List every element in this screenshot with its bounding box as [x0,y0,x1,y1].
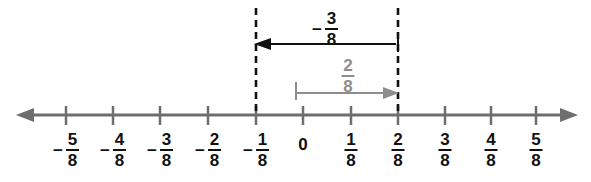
right-arrowhead-icon [560,108,578,122]
zero-value: 0 [298,136,307,153]
denominator: 8 [392,152,403,169]
minus-sign: − [195,142,205,159]
minus-sign: − [147,142,157,159]
denominator: 8 [439,152,450,169]
denominator: 8 [257,152,268,169]
fraction: 4 8 [485,131,498,170]
fraction: 2 8 [208,131,221,170]
tick-label-minus-two-eighths: − 2 8 [195,131,221,170]
left-arrowhead-icon [16,108,34,122]
denominator: 8 [342,78,353,95]
fraction: 3 8 [160,131,173,170]
denominator: 8 [161,152,172,169]
numerator: 2 [392,131,403,148]
numerator: 2 [209,131,220,148]
tick-label-one-eighth: 1 8 [345,131,358,170]
minus-sign: − [100,142,110,159]
numerator: 3 [326,10,337,27]
numerator: 3 [439,131,450,148]
numerator: 4 [485,131,496,148]
minus-sign: − [312,21,322,38]
number-line-figure: − 5 8 − 4 8 − 3 8 − 2 8 − 1 [0,0,591,182]
tick-label-minus-five-eighths: − 5 8 [53,131,79,170]
minus-sign: − [53,142,63,159]
denominator: 8 [485,152,496,169]
minus-sign: − [243,142,253,159]
fraction: 2 8 [392,131,405,170]
numerator: 1 [345,131,356,148]
fraction: 2 8 [342,57,355,96]
denominator: 8 [209,152,220,169]
numerator: 5 [530,131,541,148]
denominator: 8 [345,152,356,169]
fraction: 5 8 [66,131,79,170]
denominator: 8 [114,152,125,169]
tick-label-five-eighths: 5 8 [530,131,543,170]
tick-label-three-eighths: 3 8 [439,131,452,170]
tick-label-zero: 0 [298,136,307,153]
fraction: 1 8 [256,131,269,170]
numerator: 4 [114,131,125,148]
denominator: 8 [326,31,337,48]
tick-label-four-eighths: 4 8 [485,131,498,170]
numerator: 5 [67,131,78,148]
axis-group [16,108,578,122]
number-line-graphics [0,0,591,182]
denominator: 8 [67,152,78,169]
positive-jump-label: 2 8 [342,57,355,96]
negative-jump-label: − 3 8 [312,10,338,49]
denominator: 8 [530,152,541,169]
fraction: 1 8 [345,131,358,170]
fraction: 4 8 [113,131,126,170]
fraction: 3 8 [325,10,338,49]
tick-label-minus-four-eighths: − 4 8 [100,131,126,170]
numerator: 3 [161,131,172,148]
fraction: 5 8 [530,131,543,170]
fraction: 3 8 [439,131,452,170]
numerator: 2 [342,57,353,74]
tick-label-minus-one-eighth: − 1 8 [243,131,269,170]
positive-jump-arrowhead-icon [383,87,399,99]
numerator: 1 [257,131,268,148]
tick-label-two-eighths: 2 8 [392,131,405,170]
tick-label-minus-three-eighths: − 3 8 [147,131,173,170]
